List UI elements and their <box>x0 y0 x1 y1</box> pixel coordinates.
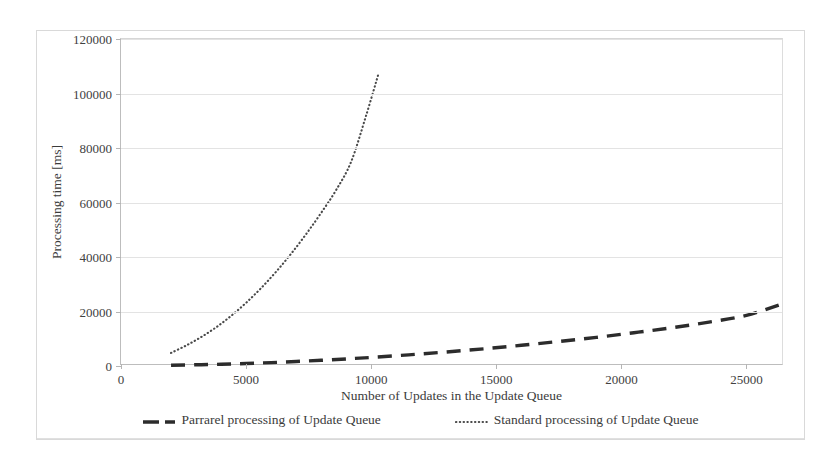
legend-item[interactable]: Standard processing of Update Queue <box>455 412 699 428</box>
y-axis-title-label: Processing time [ms] <box>49 145 65 259</box>
x-tick-label: 15000 <box>480 373 513 386</box>
y-tick-label: 80000 <box>80 142 113 155</box>
legend-item[interactable]: Parrarel processing of Update Queue <box>142 412 380 428</box>
x-tick-label: 25000 <box>730 373 763 386</box>
y-tick-mark <box>116 312 121 313</box>
y-tick-mark <box>116 94 121 95</box>
legend-divider <box>37 438 804 439</box>
x-tick-label: 5000 <box>233 373 259 386</box>
y-axis-title: Processing time [ms] <box>48 38 66 365</box>
y-tick-label: 100000 <box>73 87 112 100</box>
x-tick-label: 20000 <box>605 373 638 386</box>
y-tick-label: 40000 <box>80 251 113 264</box>
legend-dotted-line-icon <box>455 415 489 425</box>
x-axis-title: Number of Updates in the Update Queue <box>120 388 783 404</box>
y-tick-label: 120000 <box>73 33 112 46</box>
x-tick-label: 0 <box>118 373 125 386</box>
legend-dashed-line-icon <box>142 415 176 425</box>
x-tick-mark <box>746 364 747 369</box>
y-tick-mark <box>116 257 121 258</box>
y-gridline <box>121 203 782 204</box>
y-gridline <box>121 148 782 149</box>
chart-figure: Processing time [ms] 0200004000060000800… <box>0 0 838 468</box>
x-tick-mark <box>621 364 622 369</box>
y-tick-label: 20000 <box>80 305 113 318</box>
x-tick-mark <box>246 364 247 369</box>
series-line-1 <box>171 304 781 365</box>
y-gridline <box>121 39 782 40</box>
y-tick-mark <box>116 148 121 149</box>
x-tick-mark <box>496 364 497 369</box>
y-tick-mark <box>116 39 121 40</box>
y-gridline <box>121 257 782 258</box>
plot-area: 0200004000060000800001000001200000500010… <box>120 38 783 365</box>
y-gridline <box>121 94 782 95</box>
x-axis-title-label: Number of Updates in the Update Queue <box>341 388 562 403</box>
x-tick-mark <box>371 364 372 369</box>
x-tick-label: 10000 <box>355 373 388 386</box>
y-tick-mark <box>116 203 121 204</box>
y-tick-label: 0 <box>106 360 113 373</box>
legend-label: Parrarel processing of Update Queue <box>181 412 380 428</box>
chart-legend: Parrarel processing of Update QueueStand… <box>36 408 805 432</box>
legend-label: Standard processing of Update Queue <box>494 412 699 428</box>
y-tick-label: 60000 <box>80 196 113 209</box>
y-gridline <box>121 312 782 313</box>
x-tick-mark <box>121 364 122 369</box>
